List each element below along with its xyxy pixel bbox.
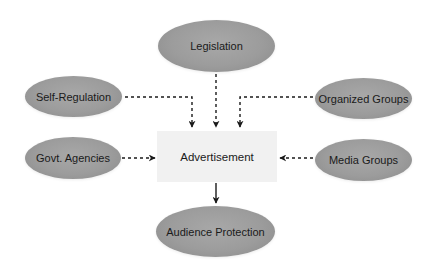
edge-self-regulation <box>125 97 192 127</box>
media-groups-label: Media Groups <box>329 154 398 166</box>
advertisement-regulation-diagram: Legislation Self-Regulation Organized Gr… <box>0 0 435 269</box>
legislation-node: Legislation <box>158 20 275 72</box>
govt-agencies-label: Govt. Agencies <box>36 152 110 164</box>
organized-groups-label: Organized Groups <box>319 93 409 105</box>
edge-organized-groups <box>240 97 313 127</box>
organized-groups-node: Organized Groups <box>315 78 412 119</box>
advertisement-box: Advertisement <box>157 131 277 182</box>
govt-agencies-node: Govt. Agencies <box>25 137 121 179</box>
self-regulation-node: Self-Regulation <box>25 76 122 117</box>
audience-protection-node: Audience Protection <box>156 206 275 257</box>
self-regulation-label: Self-Regulation <box>36 91 111 103</box>
advertisement-label: Advertisement <box>180 151 254 163</box>
legislation-label: Legislation <box>190 40 243 52</box>
audience-protection-label: Audience Protection <box>166 226 264 238</box>
media-groups-node: Media Groups <box>315 139 412 181</box>
